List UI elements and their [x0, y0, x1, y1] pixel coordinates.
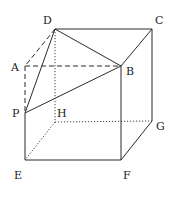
vertex-label-c: C [155, 14, 163, 27]
edges-group [25, 29, 152, 160]
vertex-label-e: E [14, 169, 22, 182]
vertex-label-d: D [43, 14, 52, 27]
edge-hg [55, 121, 152, 122]
vertex-label-f: F [123, 169, 131, 182]
edge-cb [121, 29, 152, 66]
edge-fg [121, 121, 152, 160]
edge-da [25, 29, 55, 66]
cube-diagram: D C A B P H G E F [0, 0, 173, 197]
vertex-label-a: A [10, 61, 20, 74]
vertex-label-g: G [156, 120, 165, 133]
vertex-label-b: B [126, 65, 134, 78]
vertex-label-h: H [57, 107, 67, 120]
labels-group: D C A B P H G E F [10, 14, 165, 182]
vertex-label-p: P [12, 107, 20, 120]
edge-db [55, 29, 121, 66]
edge-he [25, 122, 55, 160]
